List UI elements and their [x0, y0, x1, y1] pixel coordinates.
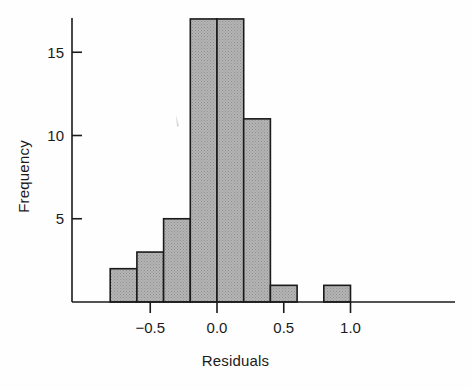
histogram-bar	[137, 252, 164, 302]
x-tick-label: 0.5	[273, 319, 294, 336]
x-tick-label: 0.0	[207, 319, 228, 336]
x-tick-label: −0.5	[135, 319, 165, 336]
y-tick-label: 10	[47, 127, 64, 144]
histogram-bar	[217, 19, 244, 302]
plot-area: 51015 −0.50.00.51.0	[0, 0, 471, 390]
histogram-bar	[324, 285, 351, 302]
scan-artifact-mark	[176, 115, 179, 127]
histogram-bar	[190, 19, 217, 302]
y-tick-label: 15	[47, 44, 64, 61]
histogram-bar	[244, 119, 271, 302]
histogram-figure: Frequency Residuals 51015 −0.50.00.51.0	[0, 0, 471, 390]
histogram-bar	[164, 219, 191, 302]
y-ticks-group: 51015	[47, 44, 82, 228]
bars-group	[110, 19, 350, 302]
y-tick-label: 5	[56, 210, 64, 227]
histogram-bar	[270, 285, 297, 302]
x-ticks-group: −0.50.00.51.0	[135, 302, 360, 336]
x-tick-label: 1.0	[340, 319, 361, 336]
histogram-bar	[110, 269, 137, 302]
